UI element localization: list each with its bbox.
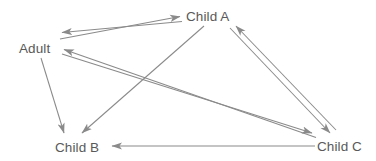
node-adult: Adult — [17, 41, 52, 56]
edge-childa-to-adult — [62, 22, 182, 33]
edge-adult-to-childa — [60, 17, 180, 40]
node-child-a: Child A — [184, 9, 231, 24]
edge-childa-to-childb — [82, 26, 204, 133]
node-child-c: Child C — [315, 139, 364, 154]
node-child-a-label: Child A — [186, 9, 229, 24]
node-adult-label: Adult — [19, 41, 50, 56]
interaction-diagram: Adult Child A Child B Child C — [0, 0, 376, 161]
node-child-c-label: Child C — [317, 139, 362, 154]
edge-childc-to-adult — [64, 50, 316, 138]
edge-adult-to-childb — [41, 58, 64, 133]
node-child-b-label: Child B — [55, 140, 99, 155]
edge-layer — [0, 0, 376, 161]
node-child-b: Child B — [53, 140, 101, 155]
edge-childa-to-childc — [230, 28, 330, 133]
